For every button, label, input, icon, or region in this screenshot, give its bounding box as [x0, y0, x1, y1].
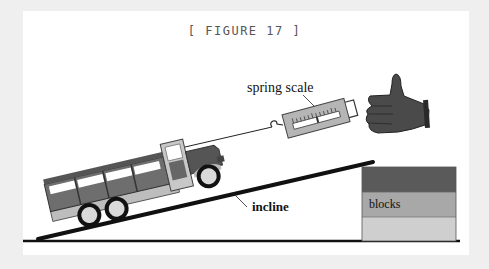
blocks-label: blocks	[369, 197, 400, 212]
incline-label: incline	[252, 199, 289, 215]
spring-scale	[282, 96, 359, 138]
incline-pointer	[233, 193, 247, 207]
spring-scale-label: spring scale	[247, 80, 313, 96]
hand	[366, 74, 430, 133]
string	[185, 127, 272, 147]
incline-diagram	[0, 0, 489, 269]
scale-hook	[271, 121, 283, 127]
